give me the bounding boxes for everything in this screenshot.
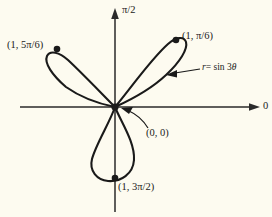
point-dot-origin (111, 103, 118, 110)
point-dot-upper-left (54, 46, 61, 53)
polar-axis-arrowhead (249, 103, 260, 111)
curve-equation-theta: θ (232, 62, 237, 72)
point-label-upper-right: (1, π/6) (182, 31, 213, 42)
point-label-lower: (1, 3π/2) (118, 182, 154, 193)
polar-axis (20, 103, 260, 111)
vertical-axis-arrowhead (111, 8, 119, 19)
point-dot-upper-right (173, 37, 180, 44)
point-label-origin: (0, 0) (146, 128, 169, 139)
polar-axis-label: 0 (263, 101, 268, 112)
point-label-upper-left: (1, 5π/6) (7, 40, 43, 51)
curve-equation-label: r= sin 3θ (202, 63, 236, 73)
vertical-axis-label: π/2 (122, 5, 135, 16)
origin-label-arrowhead (121, 107, 133, 114)
origin-label-leader (121, 107, 148, 128)
curve-equation-body: = sin 3 (206, 62, 232, 72)
